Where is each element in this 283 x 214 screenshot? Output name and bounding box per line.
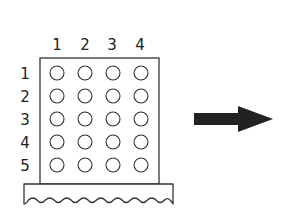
arrow-right-icon <box>194 106 273 132</box>
board-base <box>24 184 173 204</box>
column-labels: 1 2 3 4 <box>52 36 145 54</box>
column-label: 3 <box>107 36 117 54</box>
row-label: 2 <box>20 88 30 106</box>
row-label: 4 <box>20 134 30 152</box>
connect-board-diagram: 1 2 3 4 1 2 3 4 5 <box>0 0 283 214</box>
board-frame <box>40 58 159 184</box>
row-labels: 1 2 3 4 5 <box>20 65 30 175</box>
row-label: 3 <box>20 111 30 129</box>
row-label: 5 <box>20 157 30 175</box>
column-label: 2 <box>80 36 90 54</box>
column-label: 4 <box>135 36 145 54</box>
row-label: 1 <box>20 65 30 83</box>
column-label: 1 <box>52 36 62 54</box>
